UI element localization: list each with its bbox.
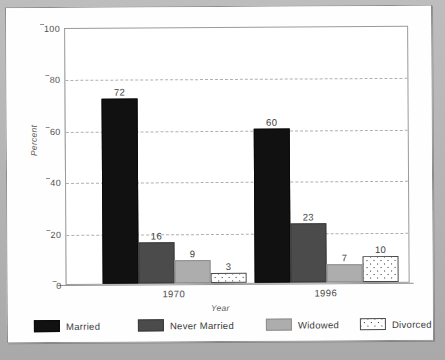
x-category-1996: 1996	[314, 287, 337, 298]
legend-swatch-married-icon	[34, 320, 60, 332]
bar-value-1996-widowed: 7	[342, 252, 348, 263]
y-tick-100: 100	[44, 24, 65, 34]
bar-value-1996-married: 60	[266, 116, 277, 127]
y-tick-0: 0	[56, 281, 66, 291]
x-axis-label: Year	[8, 302, 433, 315]
legend-label-divorced: Divorced	[392, 318, 432, 329]
legend-item-married[interactable]: Married	[34, 320, 100, 332]
y-axis-label: Percent	[29, 125, 39, 156]
y-tick-40: 40	[50, 178, 66, 188]
y-tick-20: 20	[51, 230, 67, 240]
bar-1970-divorced[interactable]: 3	[211, 273, 247, 283]
bar-chart: Percent 100 80 60 40 20	[6, 6, 433, 343]
bar-1970-married[interactable]: 72	[102, 98, 139, 283]
bar-1996-widowed[interactable]: 7	[327, 264, 363, 282]
bar-value-1970-widowed: 9	[190, 248, 196, 259]
legend-swatch-never-married-icon	[138, 319, 164, 331]
bar-value-1970-married: 72	[114, 87, 125, 98]
bar-1996-never-married[interactable]: 23	[290, 223, 326, 282]
legend-item-widowed[interactable]: Widowed	[266, 318, 339, 330]
page-surface: Percent 100 80 60 40 20	[6, 6, 433, 343]
plot-area: 100 80 60 40 20 0 72 16 9	[64, 26, 410, 285]
bar-1996-married[interactable]: 60	[254, 128, 291, 282]
gridline-80	[65, 78, 407, 81]
y-tick-80: 80	[50, 75, 66, 85]
bar-1970-never-married[interactable]: 16	[138, 242, 174, 283]
scanned-page-background: Percent 100 80 60 40 20	[0, 0, 445, 360]
bar-value-1996-divorced: 10	[375, 244, 386, 255]
bar-value-1996-never-married: 23	[303, 211, 314, 222]
document-page: Percent 100 80 60 40 20	[5, 5, 434, 344]
bar-value-1970-divorced: 3	[226, 261, 232, 272]
legend-item-divorced[interactable]: Divorced	[360, 318, 432, 330]
chart-legend: Married Never Married Widowed Divorced	[34, 318, 414, 338]
legend-label-never-married: Never Married	[170, 319, 234, 330]
bar-value-1970-never-married: 16	[151, 230, 162, 241]
x-category-1970: 1970	[162, 288, 185, 299]
legend-item-never-married[interactable]: Never Married	[138, 319, 234, 332]
legend-swatch-widowed-icon	[266, 319, 292, 331]
legend-label-widowed: Widowed	[298, 319, 339, 330]
legend-label-married: Married	[66, 320, 100, 331]
bar-1970-widowed[interactable]: 9	[175, 260, 211, 283]
bar-1996-divorced[interactable]: 10	[363, 256, 399, 282]
legend-swatch-divorced-icon	[360, 318, 386, 330]
y-tick-60: 60	[50, 127, 66, 137]
